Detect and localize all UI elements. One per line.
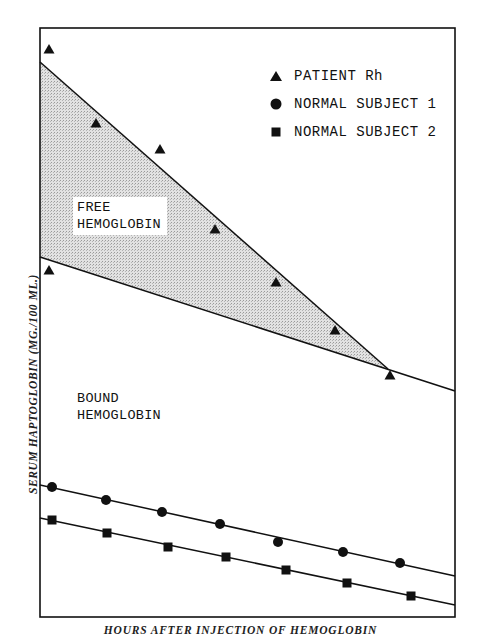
legend-item-normal-2: NORMAL SUBJECT 2 bbox=[268, 118, 436, 146]
legend-label: NORMAL SUBJECT 1 bbox=[294, 96, 436, 112]
legend-label: NORMAL SUBJECT 2 bbox=[294, 124, 436, 140]
bound-label-line1: BOUND bbox=[77, 390, 161, 407]
square-marker-icon bbox=[222, 553, 231, 562]
square-marker-icon bbox=[343, 579, 352, 588]
circle-marker-icon bbox=[47, 482, 57, 492]
y-axis-label: SERUM HAPTOGLOBIN (MG./100 ML.) bbox=[27, 274, 39, 494]
triangle-marker-icon bbox=[44, 44, 55, 54]
free-label-line1: FREE bbox=[77, 199, 161, 216]
square-marker-icon bbox=[268, 124, 284, 140]
legend-item-patient: PATIENT Rh bbox=[268, 62, 436, 90]
circle-marker-icon bbox=[101, 495, 111, 505]
triangle-marker-icon bbox=[155, 144, 166, 154]
triangle-marker-icon bbox=[268, 68, 284, 84]
bound-label-line2: HEMOGLOBIN bbox=[77, 407, 161, 424]
square-marker-icon bbox=[103, 529, 112, 538]
circle-marker-icon bbox=[268, 96, 284, 112]
legend-item-normal-1: NORMAL SUBJECT 1 bbox=[268, 90, 436, 118]
circle-marker-icon bbox=[215, 519, 225, 529]
free-label-line2: HEMOGLOBIN bbox=[77, 216, 161, 233]
legend-label: PATIENT Rh bbox=[294, 68, 383, 84]
circle-marker-icon bbox=[395, 558, 405, 568]
square-marker-icon bbox=[407, 592, 416, 601]
x-axis-label: HOURS AFTER INJECTION OF HEMOGLOBIN bbox=[0, 624, 481, 636]
circle-marker-icon bbox=[273, 537, 283, 547]
circle-marker-icon bbox=[157, 507, 167, 517]
square-marker-icon bbox=[164, 543, 173, 552]
free-hemoglobin-label: FREE HEMOGLOBIN bbox=[73, 197, 167, 235]
chart-legend: PATIENT Rh NORMAL SUBJECT 1 NORMAL SUBJE… bbox=[268, 62, 436, 146]
bound-hemoglobin-label: BOUND HEMOGLOBIN bbox=[77, 390, 161, 424]
square-marker-icon bbox=[48, 516, 57, 525]
circle-marker-icon bbox=[338, 547, 348, 557]
triangle-marker-icon bbox=[44, 265, 55, 275]
square-marker-icon bbox=[282, 566, 291, 575]
